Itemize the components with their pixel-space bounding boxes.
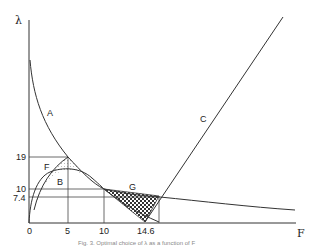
curve-label-a: A — [47, 108, 53, 118]
curve-label-c: C — [200, 114, 207, 124]
curve-a — [30, 60, 295, 210]
curve-label-f: F — [44, 162, 50, 172]
curve-label-g: G — [129, 182, 136, 192]
figure-caption: Fig. 3. Optimal choice of λ as a functio… — [78, 240, 195, 246]
diagram: 19 10 7.4 0 5 10 14.6 λ F A F B G C Fig.… — [0, 0, 315, 248]
x-tick-10: 10 — [99, 226, 109, 236]
x-tick-14-6: 14.6 — [137, 226, 155, 236]
line-c — [145, 17, 283, 222]
x-axis-label: F — [297, 227, 305, 240]
y-tick-7-4: 7.4 — [13, 193, 26, 203]
curve-label-b: B — [57, 177, 63, 187]
y-axis-label: λ — [15, 14, 22, 27]
y-tick-19: 19 — [16, 152, 26, 162]
x-tick-0: 0 — [27, 226, 32, 236]
x-tick-5: 5 — [65, 226, 70, 236]
